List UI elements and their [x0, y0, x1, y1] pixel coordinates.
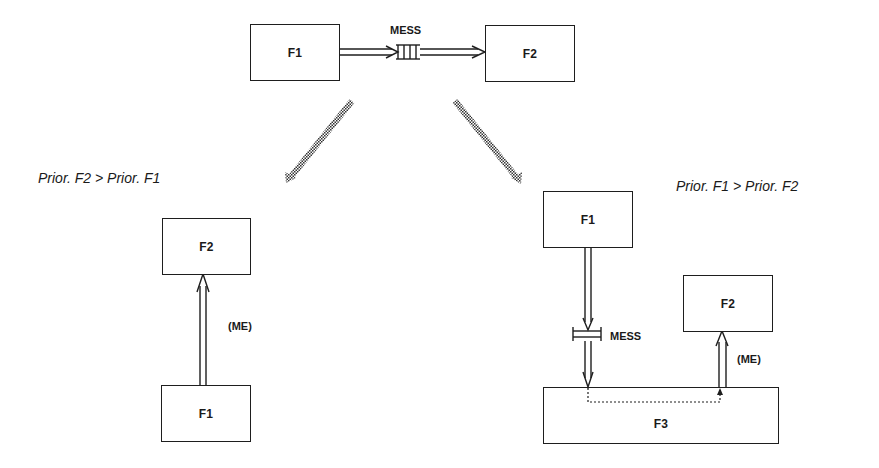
- left-f2-box: F2: [162, 218, 251, 275]
- branch-arrow-right: [455, 101, 522, 184]
- right-f3-label: F3: [654, 417, 669, 431]
- right-message-label: MESS: [610, 330, 641, 342]
- right-f1-label: F1: [581, 213, 596, 227]
- right-f1-box: F1: [543, 191, 633, 248]
- branch-arrow-left: [285, 101, 352, 183]
- top-message-label: MESS: [390, 24, 421, 36]
- top-f2-label: F2: [523, 47, 538, 61]
- top-f1-box: F1: [250, 24, 340, 81]
- right-me-arrow: [716, 331, 728, 387]
- left-f1-box: F1: [161, 385, 251, 442]
- right-f2-box: F2: [683, 275, 773, 332]
- left-me-label: (ME): [228, 320, 252, 332]
- top-f2-box: F2: [485, 25, 575, 82]
- right-mess-arrow: [573, 247, 601, 387]
- right-priority-caption: Prior. F1 > Prior. F2: [676, 178, 798, 194]
- top-f1-label: F1: [288, 46, 303, 60]
- top-message-arrow: [339, 45, 485, 59]
- left-me-arrow: [197, 274, 209, 385]
- right-f2-label: F2: [721, 297, 736, 311]
- left-f2-label: F2: [199, 240, 214, 254]
- right-f3-box: F3: [543, 387, 779, 444]
- left-f1-label: F1: [199, 407, 214, 421]
- right-me-label: (ME): [737, 353, 761, 365]
- left-priority-caption: Prior. F2 > Prior. F1: [38, 170, 160, 186]
